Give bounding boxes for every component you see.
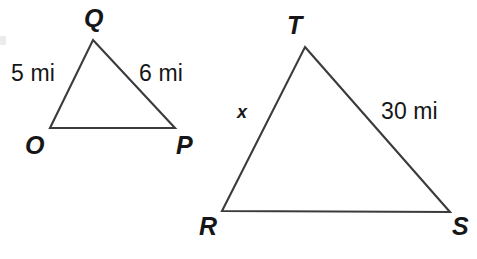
vertex-label-s: S (452, 214, 469, 239)
vertex-label-q: Q (84, 6, 104, 31)
side-label-qp: 6 mi (139, 62, 183, 85)
vertex-label-t: T (287, 13, 302, 38)
triangles-drawing (0, 0, 477, 259)
geometry-figure: Q O P 5 mi 6 mi T R S x 30 mi (0, 0, 477, 259)
side-label-ts: 30 mi (381, 100, 438, 123)
side-label-rt: x (237, 103, 247, 121)
triangle-rst-outline (222, 47, 450, 212)
vertex-label-o: O (25, 133, 45, 158)
side-label-oq: 5 mi (11, 62, 55, 85)
vertex-label-p: P (176, 133, 193, 158)
vertex-label-r: R (199, 214, 217, 239)
